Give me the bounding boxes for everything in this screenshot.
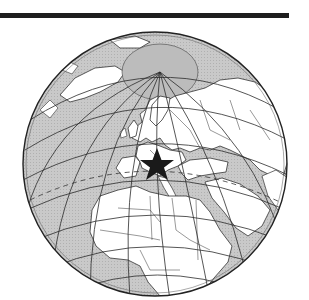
globe-map [0, 0, 309, 300]
globe-svg [0, 0, 309, 300]
